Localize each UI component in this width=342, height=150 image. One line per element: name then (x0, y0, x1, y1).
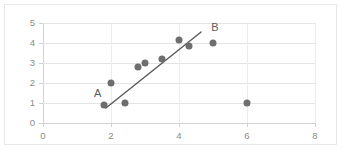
y-axis-tick-label: 4 (13, 37, 35, 48)
x-axis-tick (247, 123, 248, 127)
y-axis-tick-label: 0 (13, 117, 35, 128)
chart-frame: 012345 02468 AB (4, 4, 337, 145)
plot-area: AB (43, 23, 315, 123)
x-axis-tick (43, 123, 44, 127)
x-axis-tick-label: 8 (305, 130, 325, 141)
scatter-point (244, 100, 251, 107)
y-axis-tick-label: 1 (13, 97, 35, 108)
x-axis-tick-label: 2 (101, 130, 121, 141)
scatter-point (186, 43, 193, 50)
x-axis-tick (315, 123, 316, 127)
line-endpoint-b: B (211, 21, 218, 33)
scatter-point (159, 56, 166, 63)
line-endpoint-a: A (94, 87, 101, 99)
scatter-point (101, 102, 108, 109)
x-axis-tick (179, 123, 180, 127)
x-axis-tick-label: 0 (33, 130, 53, 141)
scatter-point (210, 40, 217, 47)
scatter-point (108, 80, 115, 87)
scatter-point (135, 64, 142, 71)
scatter-point (176, 37, 183, 44)
scatter-point (142, 60, 149, 67)
scatter-point (121, 100, 128, 107)
y-axis-tick-label: 5 (13, 17, 35, 28)
y-axis-tick-label: 2 (13, 77, 35, 88)
x-axis-tick (111, 123, 112, 127)
y-axis-tick-label: 3 (13, 57, 35, 68)
x-axis-tick-label: 4 (169, 130, 189, 141)
gridline-vertical (315, 23, 316, 123)
x-axis-tick-label: 6 (237, 130, 257, 141)
